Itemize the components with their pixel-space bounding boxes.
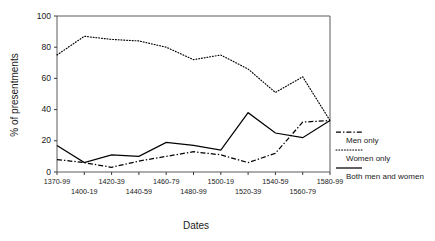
x-tick-label: 1370-99 xyxy=(44,177,70,186)
legend-label: Men only xyxy=(346,136,378,145)
y-axis-ticks: 020406080100 xyxy=(37,11,57,177)
y-tick-label: 0 xyxy=(46,167,51,177)
x-tick-label: 1580-99 xyxy=(317,177,343,186)
y-tick-label: 60 xyxy=(41,73,51,83)
y-tick-label: 20 xyxy=(41,135,51,145)
series-line-men-only xyxy=(57,121,330,168)
legend-label: Women only xyxy=(346,154,390,163)
x-tick-label: 1540-59 xyxy=(262,177,288,186)
x-tick-label: 1420-39 xyxy=(98,177,124,186)
line-chart: 020406080100 1370-991400-191420-391440-5… xyxy=(0,0,435,241)
x-axis-ticks: 1370-991400-191420-391440-591460-791480-… xyxy=(44,172,343,196)
y-tick-label: 100 xyxy=(37,11,52,21)
x-axis-title: Dates xyxy=(183,220,209,231)
x-tick-label: 1460-79 xyxy=(153,177,179,186)
x-tick-label: 1480-99 xyxy=(180,187,206,196)
x-tick-label: 1440-59 xyxy=(126,187,152,196)
y-axis-title: % of presentments xyxy=(9,53,20,136)
x-tick-label: 1400-19 xyxy=(71,187,97,196)
data-series-group xyxy=(57,36,330,167)
plot-frame xyxy=(57,16,330,172)
chart-legend: Men onlyWomen onlyBoth men and women xyxy=(336,132,424,181)
x-tick-label: 1520-39 xyxy=(235,187,261,196)
y-tick-label: 40 xyxy=(41,104,51,114)
x-tick-label: 1500-19 xyxy=(208,177,234,186)
legend-label: Both men and women xyxy=(346,172,424,181)
x-tick-label: 1560-79 xyxy=(290,187,316,196)
series-line-women-only xyxy=(57,36,330,120)
y-tick-label: 80 xyxy=(41,42,51,52)
